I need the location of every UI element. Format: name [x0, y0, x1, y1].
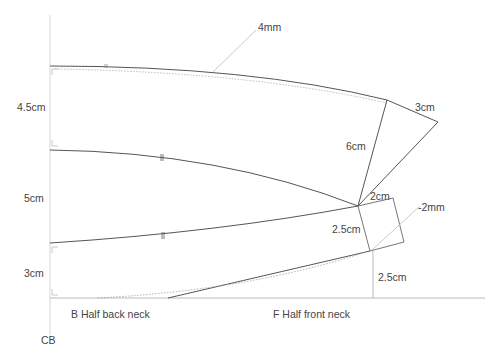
- front-neck-dotted: [98, 252, 366, 298]
- leader-4mm: [213, 30, 256, 72]
- label-4-5cm: 4.5cm: [17, 102, 46, 113]
- label-3cm-left: 3cm: [24, 268, 44, 279]
- front-neck-line: [168, 251, 370, 298]
- label-back-neck: B Half back neck: [71, 309, 150, 320]
- leader-minus-2mm: [372, 206, 420, 250]
- label-2cm: 2cm: [370, 191, 390, 202]
- neckline-curve: [50, 206, 358, 243]
- back-neck-curve: [50, 150, 358, 206]
- label-front-neck: F Half front neck: [273, 309, 350, 320]
- collar-outer-ease-line: [55, 69, 387, 103]
- label-2-5cm-square: 2.5cm: [332, 224, 361, 235]
- right-angle-marks: [52, 69, 58, 295]
- label-3cm-tip: 3cm: [415, 102, 435, 113]
- label-6cm: 6cm: [346, 141, 366, 152]
- front-square: [358, 198, 404, 251]
- label-minus-2mm: -2mm: [418, 202, 445, 213]
- notch-marks: [105, 64, 164, 239]
- collar-outer-edge: [50, 66, 438, 122]
- label-cb: CB: [41, 335, 56, 346]
- label-2-5cm-rise: 2.5cm: [378, 272, 407, 283]
- label-5cm: 5cm: [24, 193, 44, 204]
- label-4mm: 4mm: [258, 22, 281, 33]
- collar-draft-diagram: [0, 0, 495, 351]
